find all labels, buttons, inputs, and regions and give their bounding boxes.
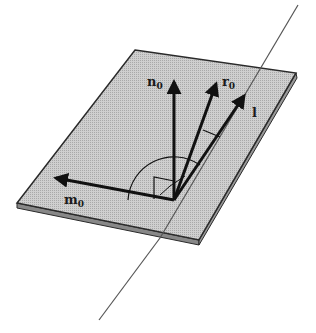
plate-vector-diagram: n0 r0 l m0 — [0, 0, 316, 333]
line-l-lower-segment — [99, 238, 160, 320]
label-l: l — [252, 105, 257, 120]
